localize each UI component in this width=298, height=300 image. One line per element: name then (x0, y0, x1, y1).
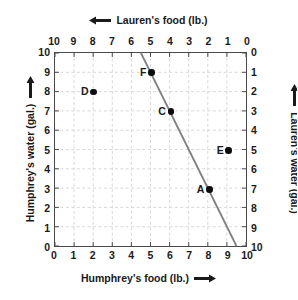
data-point-marker (148, 69, 155, 76)
data-point-marker (168, 108, 175, 115)
tick-label: 0 (244, 35, 250, 48)
tick-label: 1 (225, 35, 231, 48)
arrow-down-icon (291, 84, 298, 106)
tick-label: 3 (186, 35, 192, 48)
data-point-marker (206, 186, 213, 193)
data-point-label: E (217, 145, 224, 156)
tick-label: 6 (251, 164, 267, 175)
tick-label: 5 (251, 144, 267, 155)
bottom-axis-label: Humphrey's food (lb.) (81, 272, 189, 284)
top-axis-ticks: 109876543210 (54, 35, 247, 48)
data-point-marker (90, 89, 97, 96)
plot-area: ACDEF (54, 52, 247, 247)
right-axis-label: Lauren's water (gal.) (289, 112, 297, 214)
tick-label: 8 (90, 35, 96, 48)
tick-label: 7 (109, 35, 115, 48)
data-point-label: A (197, 184, 205, 195)
data-point-label: C (158, 106, 166, 117)
bottom-axis-ticks: 012345678910 (54, 249, 247, 262)
tick-label: 3 (251, 105, 267, 116)
arrow-right-icon (194, 274, 216, 283)
top-axis-title: Lauren's food (lb.) (0, 14, 297, 26)
tick-label: 4 (128, 249, 134, 262)
tick-label: 1 (251, 66, 267, 77)
tick-label: 2 (251, 86, 267, 97)
tick-label: 0 (34, 242, 50, 253)
data-point-label: D (81, 86, 89, 97)
data-point-marker (225, 147, 232, 154)
tick-label: 7 (34, 105, 50, 116)
tick-label: 2 (90, 249, 96, 262)
left-axis-label: Humphrey's water (gal.) (24, 104, 36, 223)
tick-label: 0 (51, 249, 57, 262)
tick-label: 6 (167, 249, 173, 262)
right-axis-ticks: 012345678910 (251, 52, 267, 247)
tick-label: 2 (205, 35, 211, 48)
data-point-label: F (140, 67, 146, 78)
bottom-axis-title: Humphrey's food (lb.) (0, 272, 297, 284)
tick-label: 9 (251, 222, 267, 233)
tick-label: 7 (251, 183, 267, 194)
tick-label: 2 (34, 203, 50, 214)
top-axis-label: Lauren's food (lb.) (116, 14, 207, 26)
left-axis-ticks: 109876543210 (34, 52, 50, 247)
tick-label: 8 (34, 86, 50, 97)
tick-label: 9 (70, 35, 76, 48)
tick-label: 9 (225, 249, 231, 262)
tick-label: 0 (251, 47, 267, 58)
tick-label: 4 (167, 35, 173, 48)
arrow-up-icon (26, 76, 35, 98)
data-points: ACDEF (55, 53, 246, 246)
tick-label: 9 (34, 66, 50, 77)
tick-label: 4 (34, 164, 50, 175)
tick-label: 6 (34, 125, 50, 136)
tick-label: 7 (186, 249, 192, 262)
arrow-left-icon (89, 16, 111, 25)
right-axis-title: Lauren's water (gal.) (289, 59, 297, 239)
tick-label: 10 (241, 249, 253, 262)
tick-label: 5 (148, 249, 154, 262)
tick-label: 10 (251, 242, 267, 253)
tick-label: 10 (34, 47, 50, 58)
tick-label: 5 (148, 35, 154, 48)
tick-label: 3 (109, 249, 115, 262)
tick-label: 1 (34, 222, 50, 233)
tick-label: 4 (251, 125, 267, 136)
tick-label: 8 (205, 249, 211, 262)
tick-label: 6 (128, 35, 134, 48)
tick-label: 1 (70, 249, 76, 262)
tick-label: 3 (34, 183, 50, 194)
graph-figure: Lauren's food (lb.) 109876543210 1098765… (0, 0, 297, 300)
tick-label: 8 (251, 203, 267, 214)
tick-label: 5 (34, 144, 50, 155)
left-axis-title: Humphrey's water (gal.) (24, 59, 36, 239)
